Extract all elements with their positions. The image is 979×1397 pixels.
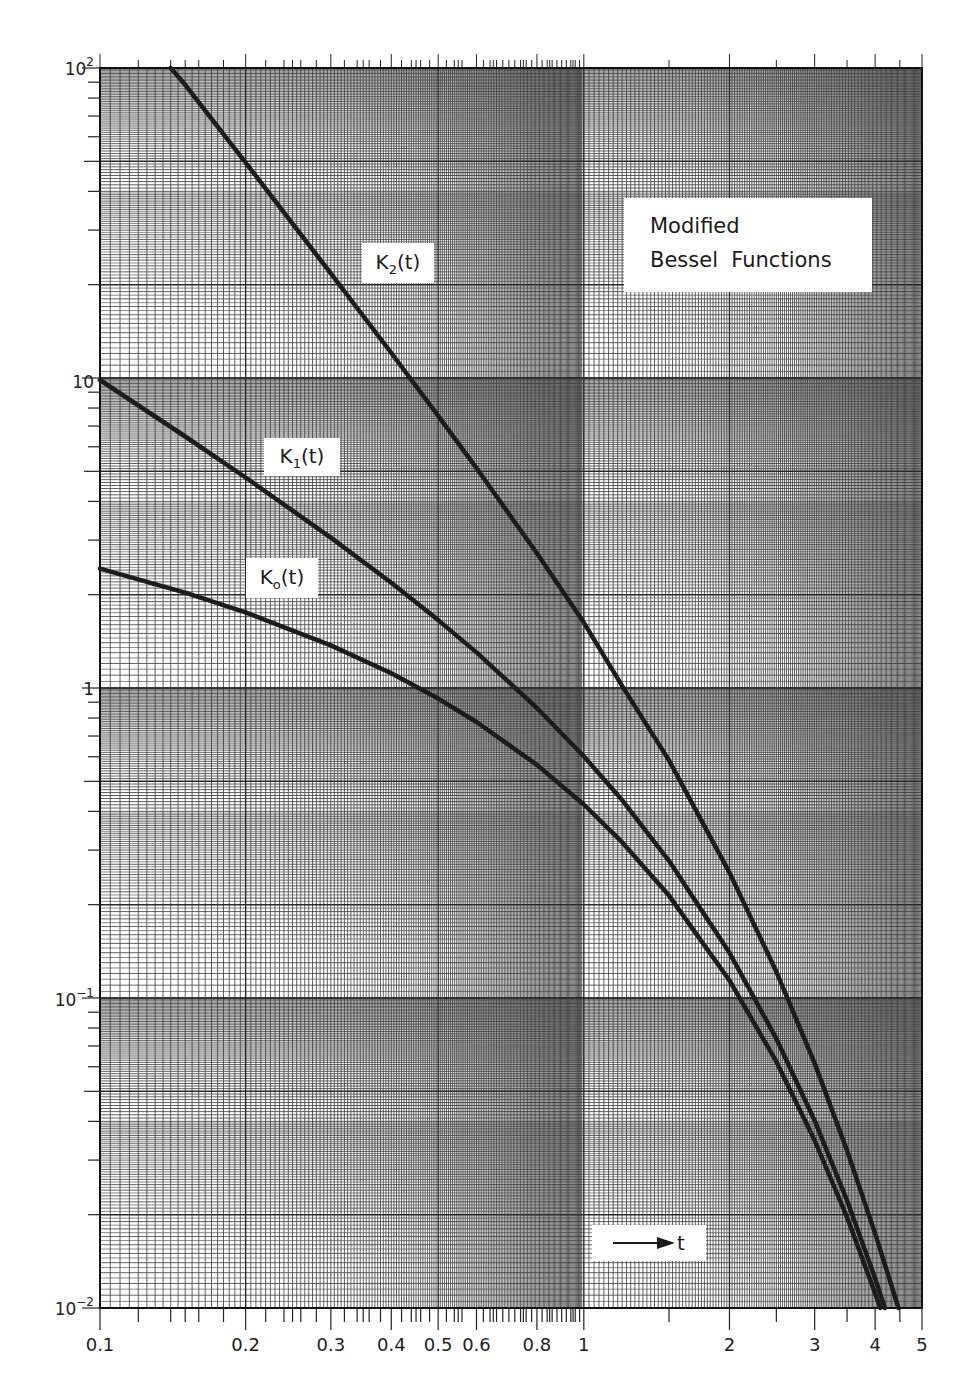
x-tick-label: 0.8 [523,1334,552,1355]
x-tick-label: 3 [809,1334,820,1355]
x-tick-label: 0.2 [231,1334,260,1355]
label-k1: K1(t) [264,438,340,476]
chart-title-line-1: Modified [650,214,740,238]
arrow-right-icon [613,1236,675,1250]
x-tick-label: 0.6 [462,1334,491,1355]
label-k2: K2(t) [362,243,434,283]
chart-title-line-2: Bessel Functions [650,248,832,272]
label-k0: Ko(t) [246,558,318,598]
y-tick-0.1: 10−1 [34,988,94,1010]
chart-title-box: Modified Bessel Functions [624,198,872,292]
x-tick-label: 0.4 [377,1334,406,1355]
y-tick-10: 10 [34,372,94,392]
x-axis-arrow-box: t [592,1225,706,1261]
x-tick-label: 5 [916,1334,927,1355]
x-axis-label: t [677,1231,685,1255]
x-tick-label: 1 [578,1334,589,1355]
x-tick-label: 2 [724,1334,735,1355]
y-tick-1: 1 [34,679,94,699]
x-tick-label: 0.3 [317,1334,346,1355]
x-tick-label: 0.5 [424,1334,453,1355]
x-tick-label: 4 [869,1334,880,1355]
x-tick-label: 0.1 [86,1334,115,1355]
y-tick-0.01: 10−2 [34,1297,94,1319]
y-tick-100: 102 [34,57,94,79]
